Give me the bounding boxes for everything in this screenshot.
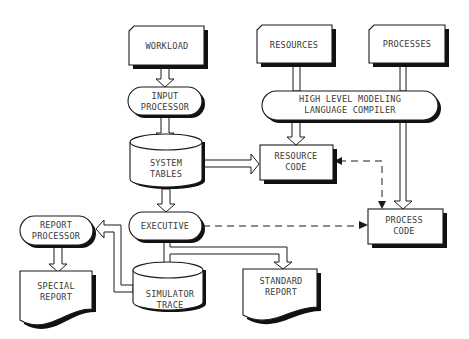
node-process-code: PROCESS CODE — [368, 209, 447, 248]
node-resources: RESOURCES — [257, 25, 336, 67]
arrow-simulator-trace-to-report-processor — [96, 220, 133, 292]
label-simulator-trace-line2: TRACE — [157, 300, 184, 310]
label-resources: RESOURCES — [270, 40, 318, 50]
node-input-processor: INPUT PROCESSOR — [128, 87, 205, 118]
label-resource-code-line1: RESOURCE — [275, 151, 318, 161]
label-compiler-line2: LANGUAGE COMPILER — [304, 105, 396, 115]
node-resource-code: RESOURCE CODE — [260, 145, 337, 184]
node-report-processor: REPORT PROCESSOR — [20, 216, 96, 248]
label-system-tables-line1: SYSTEM — [150, 158, 182, 168]
node-compiler: HIGH LEVEL MODELING LANGUAGE COMPILER — [262, 91, 441, 123]
node-workload: WORKLOAD — [129, 26, 208, 69]
arrowhead-into-process-code-left — [359, 221, 368, 229]
label-executive: EXECUTIVE — [141, 221, 189, 231]
node-executive: EXECUTIVE — [129, 212, 205, 243]
label-special-report-line1: SPECIAL — [37, 281, 75, 291]
arrow-report-processor-to-special-report — [49, 247, 67, 272]
arrow-compiler-to-resource-code — [287, 121, 305, 145]
label-special-report-line2: REPORT — [40, 292, 72, 302]
node-special-report: SPECIAL REPORT — [20, 271, 96, 329]
label-input-processor-line2: PROCESSOR — [141, 102, 190, 112]
label-simulator-trace-line1: SIMULATOR — [146, 289, 195, 299]
flowchart-canvas: WORKLOAD RESOURCES PROCESSES INPUT PROCE… — [0, 0, 469, 339]
label-system-tables-line2: TABLES — [150, 169, 182, 179]
node-processes: PROCESSES — [369, 25, 449, 67]
node-standard-report: STANDARD REPORT — [243, 269, 321, 324]
label-report-processor-line2: PROCESSOR — [32, 231, 81, 241]
dashed-link-resource-code-process-code — [339, 161, 382, 204]
node-system-tables: SYSTEM TABLES — [130, 134, 205, 189]
label-compiler-line1: HIGH LEVEL MODELING — [299, 94, 401, 104]
arrow-workload-to-input-processor — [156, 66, 174, 87]
label-report-processor-line1: REPORT — [40, 220, 72, 230]
arrowhead-into-process-code-top — [378, 201, 386, 209]
node-simulator-trace: SIMULATOR TRACE — [133, 262, 206, 312]
label-input-processor-line1: INPUT — [152, 91, 179, 101]
arrow-resources-to-compiler — [293, 65, 300, 91]
label-processes: PROCESSES — [383, 39, 431, 49]
label-process-code-line2: CODE — [393, 226, 415, 236]
arrow-processes-to-compiler — [400, 65, 406, 91]
label-standard-report-line2: REPORT — [265, 287, 297, 297]
arrow-compiler-to-process-code — [394, 121, 412, 209]
label-process-code-line1: PROCESS — [385, 215, 423, 225]
label-workload: WORKLOAD — [146, 41, 189, 51]
label-standard-report-line1: STANDARD — [260, 276, 303, 286]
arrow-system-tables-to-resource-code — [202, 154, 259, 174]
label-resource-code-line2: CODE — [285, 162, 307, 172]
arrow-system-tables-to-executive — [157, 189, 175, 212]
